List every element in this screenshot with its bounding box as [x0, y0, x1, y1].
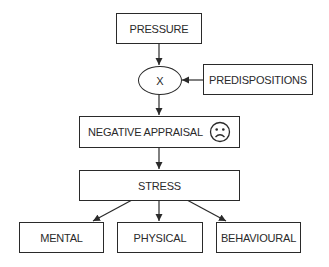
pressure-box: PRESSURE [116, 13, 202, 44]
arrow-stress-to-mental [93, 200, 132, 221]
pressure-label: PRESSURE [130, 23, 189, 35]
mental-box: MENTAL [19, 222, 104, 253]
mental-label: MENTAL [40, 232, 83, 244]
predispositions-label: PREDISPOSITIONS [209, 74, 307, 86]
physical-box: PHYSICAL [117, 222, 203, 253]
negative-appraisal-label: NEGATIVE APPRAISAL [88, 126, 203, 138]
behavioural-box: BEHAVIOURAL [216, 222, 301, 253]
multiply-node: X [138, 66, 182, 95]
physical-label: PHYSICAL [134, 232, 187, 244]
sad-face-icon [209, 121, 231, 143]
negative-appraisal-box: NEGATIVE APPRAISAL [79, 116, 240, 148]
stress-label: STRESS [138, 180, 181, 192]
multiply-label: X [156, 75, 163, 87]
arrow-stress-to-behavioural [187, 200, 226, 221]
stress-box: STRESS [79, 170, 240, 201]
behavioural-label: BEHAVIOURAL [221, 232, 296, 244]
predispositions-box: PREDISPOSITIONS [203, 64, 313, 95]
